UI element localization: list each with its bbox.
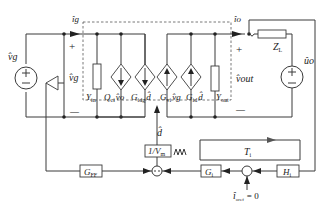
current-sense-wire [249,20,315,171]
node-dot [62,32,66,36]
output-minus: — [235,104,246,114]
output-source-label: ûo [304,55,314,66]
arrow-right-icon [143,168,151,174]
node-dot [189,32,193,36]
output-voltage-label: v̂out [236,73,254,84]
qci-label: Qciv̂o [104,92,125,103]
current-source-down-icon [111,64,131,90]
loop-gain-label: Ti [244,146,252,158]
input-voltage-label: v̂g [69,72,79,83]
input-source-label: v̂g [8,51,18,62]
arrow-up-icon [244,176,250,184]
summing-junction-icon [242,166,252,176]
output-current-label: îo [234,14,242,24]
circuit-diagram: v̂g îg + — v̂g Yin Qciv̂o [0,0,329,214]
gvi-label: Gviv̂g [160,92,181,103]
wire-crossover [250,34,254,36]
current-source-down-icon [135,64,155,90]
output-current-arrow-icon [232,31,242,37]
node-dot [119,32,123,36]
node-dot [213,115,217,119]
node-dot [213,32,217,36]
arrow-right-icon [267,137,276,143]
yin-resistor-icon [93,64,101,89]
arrow-left-icon [163,168,171,174]
duty-label: d̂ [157,126,163,138]
input-current-arrow-icon [70,31,80,37]
yout-resistor-icon [211,66,219,91]
duty-arrow-icon [154,105,160,113]
load-label: ZL [273,41,283,53]
input-minus: — [69,106,80,116]
summing-junction-icon [152,166,162,176]
output-plus: + [236,43,242,55]
node-dot [62,115,66,119]
arrow-left-icon [253,168,261,174]
input-voltage-source-icon [15,67,37,89]
reference-label: îoref= 0 [233,190,259,202]
sawtooth-icon [174,149,186,155]
arrow-left-icon [222,168,230,174]
input-plus: + [69,40,75,52]
output-voltage-source-icon [281,66,303,88]
current-source-up-icon [181,64,201,90]
yin-label: Yin [86,92,96,103]
yout-label: Yout [216,92,229,103]
current-source-up-icon [157,64,177,90]
node-dot [189,115,193,119]
input-current-label: îg [72,14,80,24]
load-impedance-icon [258,30,286,38]
voltage-sensor-icon [46,76,64,90]
gid-label: Gidd̂ [186,91,203,103]
gidg-label: Gidgd̂ [131,91,151,103]
node-dot [95,32,99,36]
